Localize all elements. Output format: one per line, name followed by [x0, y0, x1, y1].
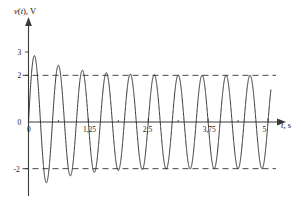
label-layer: v(t), V t, s 01,252,53,755 320-2 — [0, 0, 301, 204]
y-tick-label-2: 0 — [18, 118, 22, 127]
x-tick-label-0: 0 — [27, 125, 31, 134]
x-tick-label-3: 3,75 — [203, 125, 216, 134]
y-tick-label-group: 320-2 — [14, 48, 22, 174]
y-tick-label-3: -2 — [14, 165, 20, 174]
x-tick-label-group: 01,252,53,755 — [27, 125, 267, 134]
y-tick-label-0: 3 — [18, 48, 22, 57]
x-tick-label-4: 5 — [263, 125, 267, 134]
x-tick-label-2: 2,5 — [143, 125, 153, 134]
damped-sinusoid-chart: v(t), V t, s 01,252,53,755 320-2 — [0, 0, 301, 204]
y-axis-title: v(t), V — [14, 6, 37, 16]
y-tick-label-1: 2 — [18, 71, 22, 80]
x-axis-title: t, s — [281, 120, 291, 130]
x-tick-label-1: 1,25 — [83, 125, 96, 134]
